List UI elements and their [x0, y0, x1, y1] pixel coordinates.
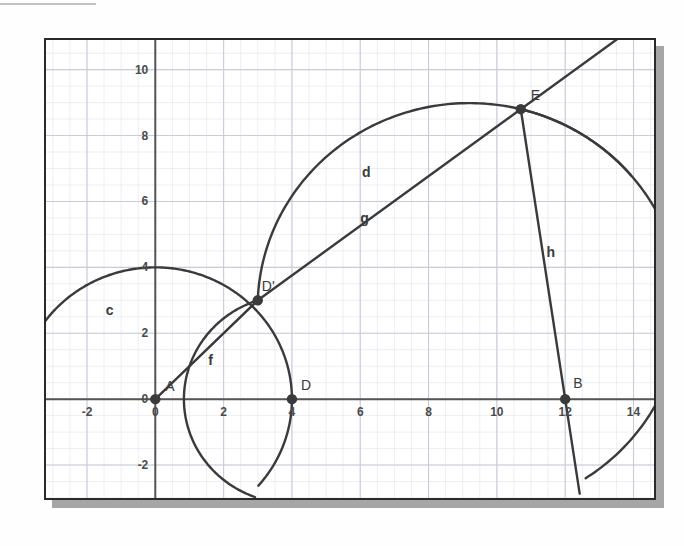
point-marker-D	[287, 394, 297, 404]
y-tick-label: 8	[142, 129, 149, 143]
segment-label-f: f	[208, 352, 213, 368]
x-tick-label: 10	[490, 405, 504, 419]
segment-h	[521, 109, 580, 493]
y-tick-label: 2	[142, 326, 149, 340]
arc-centred-A-lower	[255, 309, 292, 485]
screenshot-root: -202468101214-20246810ADBD'Ecdfgh	[0, 0, 684, 546]
geometry-plot: -202468101214-20246810ADBD'Ecdfgh	[46, 40, 654, 498]
x-tick-label: 8	[425, 405, 432, 419]
point-label-B: B	[573, 375, 582, 391]
curve-label-c: c	[106, 302, 114, 318]
point-label-E: E	[531, 87, 540, 103]
y-tick-label: 10	[135, 63, 149, 77]
segment-label-h: h	[546, 244, 555, 260]
y-tick-label: 0	[142, 392, 149, 406]
plot-frame: -202468101214-20246810ADBD'Ecdfgh	[44, 38, 656, 500]
point-label-Dprime: D'	[262, 278, 275, 294]
y-tick-label: 6	[142, 194, 149, 208]
x-tick-label: -2	[82, 405, 93, 419]
curve-label-d: d	[362, 164, 371, 180]
point-marker-B	[560, 394, 570, 404]
scan-artifact-line	[0, 3, 96, 5]
point-label-A: A	[165, 378, 175, 394]
x-tick-label: 12	[559, 405, 573, 419]
point-label-D: D	[301, 377, 311, 393]
point-marker-E	[516, 104, 526, 114]
y-tick-label: 4	[142, 260, 149, 274]
x-tick-label: 2	[220, 405, 227, 419]
x-tick-label: 4	[289, 405, 296, 419]
circle-d-arc	[258, 103, 654, 478]
y-tick-label: -2	[138, 458, 149, 472]
point-marker-Dprime	[253, 295, 263, 305]
x-tick-label: 14	[627, 405, 641, 419]
x-tick-label: 0	[152, 405, 159, 419]
segment-label-g: g	[360, 210, 369, 226]
x-tick-label: 6	[357, 405, 364, 419]
point-marker-A	[150, 394, 160, 404]
